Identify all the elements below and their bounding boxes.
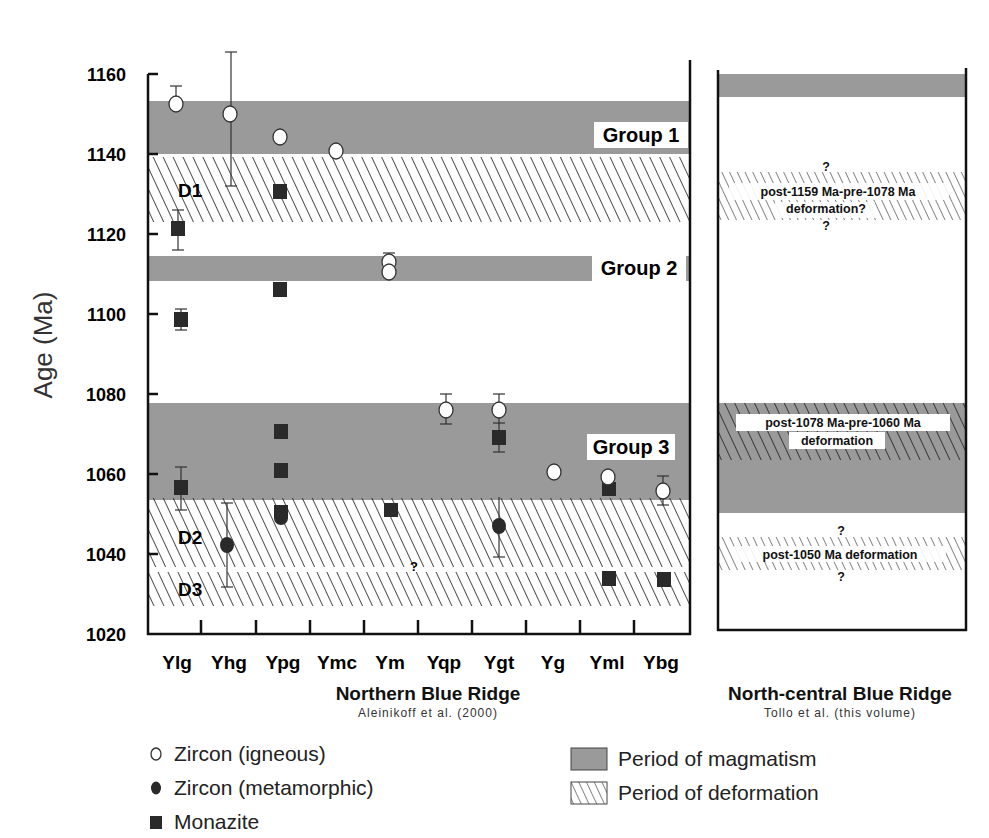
- x-tick: Ym: [375, 652, 405, 673]
- group3-label: Group 3: [593, 436, 670, 458]
- monazite-point: [174, 480, 188, 495]
- monazite-point: [274, 424, 288, 439]
- legend-label: Monazite: [174, 810, 259, 834]
- nc-def1-line1: post-1159 Ma-pre-1078 Ma: [761, 185, 917, 199]
- y-tick: 1040: [86, 545, 126, 565]
- legend-bands: Period of magmatism Period of deformatio…: [570, 742, 819, 810]
- right-panel-title: North-central Blue Ridge: [700, 683, 980, 705]
- filled-square-icon: [138, 814, 174, 830]
- question-mark: ?: [410, 559, 418, 574]
- zircon-igneous-point: [547, 464, 561, 480]
- x-tick: Ymc: [317, 652, 358, 673]
- x-tick: Ybg: [643, 652, 679, 673]
- left-panel-source: Aleinikoff et al. (2000): [308, 706, 548, 720]
- nc-deformation-2: [718, 403, 966, 460]
- open-circle-icon: [138, 746, 174, 762]
- x-tick: Yhg: [211, 652, 247, 673]
- legend-monazite: Monazite: [138, 805, 374, 838]
- question-mark: ?: [837, 524, 845, 538]
- y-tick: 1120: [87, 225, 126, 245]
- zircon-igneous-point: [223, 106, 237, 122]
- legend-zircon-metamorphic: Zircon (metamorphic): [138, 771, 374, 805]
- nc-def2-line1: post-1078 Ma-pre-1060 Ma: [765, 416, 922, 430]
- y-tick: 1020: [86, 625, 126, 645]
- northern-bands: [149, 101, 690, 606]
- right-panel-source: Tollo et al. (this volume): [700, 706, 980, 720]
- zircon-metamorphic-point: [492, 518, 506, 534]
- zircon-igneous-point: [439, 402, 453, 418]
- deformation-swatch-icon: [570, 781, 618, 805]
- legend-label: Period of deformation: [618, 781, 819, 805]
- zircon-igneous-point: [601, 469, 615, 485]
- x-tick-labels: Ylg Yhg Ypg Ymc Ym Yqp Ygt Yg Yml Ybg: [162, 652, 679, 673]
- monazite-point: [174, 312, 188, 327]
- nc-def2-line2: deformation: [801, 434, 873, 448]
- question-mark: ?: [837, 570, 845, 584]
- zircon-igneous-point: [656, 483, 670, 499]
- monazite-point: [273, 282, 287, 297]
- d1-label: D1: [178, 180, 203, 201]
- zircon-igneous-point: [382, 264, 396, 280]
- monazite-point: [274, 463, 288, 478]
- x-tick: Yml: [590, 652, 625, 673]
- d1-band: [149, 157, 690, 222]
- y-tick: 1060: [86, 465, 126, 485]
- d2-band: [149, 498, 690, 567]
- legend-deformation: Period of deformation: [570, 776, 819, 810]
- zircon-igneous-point: [273, 129, 287, 145]
- d2-label: D2: [178, 527, 202, 548]
- x-tick: Ylg: [162, 652, 192, 673]
- legend-zircon-igneous: Zircon (igneous): [138, 737, 374, 771]
- monazite-point: [384, 503, 398, 517]
- monazite-point: [273, 184, 287, 199]
- group2-label: Group 2: [601, 257, 678, 279]
- legend-magmatism: Period of magmatism: [570, 742, 819, 776]
- north-central-panel: ? post-1159 Ma-pre-1078 Ma deformation? …: [717, 68, 967, 631]
- nc-magmatism-top: [718, 74, 966, 97]
- legend-markers: Zircon (igneous) Zircon (metamorphic) Mo…: [138, 737, 374, 838]
- monazite-point: [657, 572, 671, 587]
- x-tick: Yg: [541, 652, 565, 673]
- x-tick: Ygt: [484, 652, 515, 673]
- left-panel-title: Northern Blue Ridge: [308, 683, 548, 705]
- monazite-point: [602, 571, 616, 586]
- zircon-metamorphic-point: [220, 537, 234, 553]
- y-tick: 1160: [87, 65, 126, 85]
- d3-label: D3: [178, 579, 202, 600]
- nc-def3: post-1050 Ma deformation: [763, 548, 918, 562]
- x-tick: Yqp: [427, 652, 461, 673]
- zircon-metamorphic-point: [274, 511, 288, 525]
- zircon-igneous-point: [492, 402, 506, 418]
- legend-label: Period of magmatism: [618, 747, 816, 771]
- y-tick: 1100: [87, 305, 126, 325]
- legend-label: Zircon (metamorphic): [174, 776, 374, 800]
- question-mark: ?: [822, 160, 830, 174]
- nc-def1-line2: deformation?: [786, 202, 866, 216]
- group1-label: Group 1: [603, 124, 680, 146]
- question-mark: ?: [822, 219, 830, 233]
- y-tick: 1140: [87, 145, 126, 165]
- y-tick: 1080: [86, 385, 126, 405]
- zircon-igneous-point: [329, 143, 343, 159]
- y-tick-labels: 1160 1140 1120 1100 1080 1060 1040 1020: [86, 65, 126, 645]
- y-axis-label: Age (Ma): [28, 292, 58, 399]
- monazite-point: [492, 430, 506, 445]
- legend-label: Zircon (igneous): [174, 742, 326, 766]
- monazite-point: [171, 221, 185, 236]
- filled-circle-icon: [138, 780, 174, 796]
- magmatism-swatch-icon: [570, 747, 618, 771]
- zircon-igneous-point: [169, 96, 183, 112]
- x-tick: Ypg: [266, 652, 301, 673]
